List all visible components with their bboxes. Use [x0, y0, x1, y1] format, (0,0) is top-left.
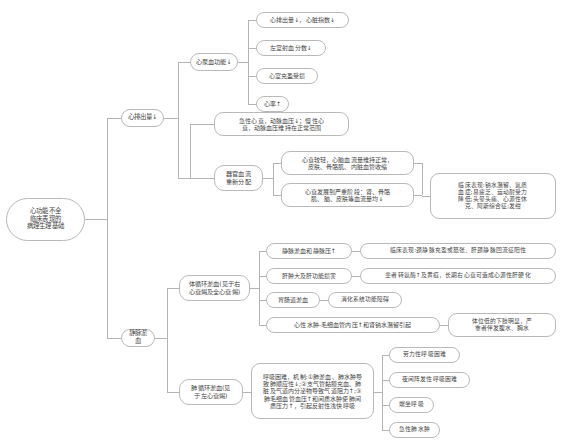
systemic-detail-3-line-2: 重者伴发腹水、胸水 — [453, 325, 551, 332]
node-pulmonary-item-0[interactable]: 劳力性呼吸困难 — [389, 347, 460, 363]
mind-map-canvas: 心功能不全 临床表现的 病理生理基础 心排出量↓ 静脉淤血 心泵血功能↓ 心排出… — [0, 0, 562, 442]
redistribution-note-line-2: 衰，动脉血压维持在正常范围 — [219, 124, 344, 131]
node-cardiac-output[interactable]: 心排出量↓ — [121, 109, 164, 127]
node-redistribution-item-1[interactable]: 心衰发展到严重阶段：肾、骨骼 肌、脑、皮肤等血流量均↓ — [281, 183, 414, 207]
mechanism-line-1: 呼吸困难，机制:①肺淤血、肺水肿导 — [256, 373, 369, 380]
pump-function-label: 心泵血功能↓ — [195, 58, 233, 66]
clinical-line-3: 降低;头晕头痛、心源性休 — [435, 196, 551, 203]
node-pulmonary-item-2[interactable]: 端坐呼吸 — [389, 397, 434, 413]
edge-redist-spine — [273, 163, 274, 195]
clinical-line-2: 血症;易疲乏、运动耐受力 — [435, 189, 551, 196]
node-pump-item-1[interactable]: 左室射血分数↓ — [256, 40, 326, 56]
edge-co-spine — [178, 62, 179, 178]
edge-to-systemic — [167, 288, 179, 289]
edge-to-cardiac-output — [107, 118, 121, 119]
edge-pump-item-2 — [248, 76, 256, 77]
edge-pump-out — [238, 62, 248, 63]
node-redistribution-note[interactable]: 急性心衰，动脉血压↓；慢性心 衰，动脉血压维持在正常范围 — [214, 112, 349, 136]
edge-pulm-item-2 — [382, 405, 389, 406]
edge-redist-out — [263, 178, 273, 179]
edge-co-out — [164, 118, 178, 119]
systemic-detail-3-line-1: 体位低的下肢明显，严 — [453, 318, 551, 325]
root-node[interactable]: 心功能不全 临床表现的 病理生理基础 — [6, 198, 85, 241]
pulmonary-item-1-label: 夜间阵发性呼吸困难 — [394, 376, 465, 383]
edge-vc-spine — [167, 288, 168, 392]
edge-sys1-detail — [352, 276, 360, 277]
pump-item-2-label: 心室充盈受损 — [261, 72, 313, 79]
node-pump-item-0[interactable]: 心排出量↓，心脏指数↓ — [256, 12, 349, 28]
edge-mech-out — [374, 392, 382, 393]
node-blood-redistribution[interactable]: 器官血流 重新分配 — [214, 165, 263, 191]
edge-redist-group-spine — [190, 124, 191, 178]
edge-level1-spine — [107, 118, 108, 338]
edge-pulm-item-3 — [382, 430, 389, 431]
edge-sys3-detail — [440, 325, 448, 326]
mechanism-line-3: 脏及气道内分泌物导致气道阻力↑;③ — [256, 387, 369, 394]
root-line-3: 病理生理基础 — [11, 223, 80, 231]
edge-item0-to-clinical — [414, 163, 422, 164]
edge-pulm-item-0 — [382, 355, 389, 356]
edge-vc-out — [155, 338, 167, 339]
edge-pump-spine — [248, 20, 249, 104]
node-systemic-item-3[interactable]: 心性水肿-毛细血管内压↑和肾钠水潴留引起 — [266, 317, 440, 333]
edge-sys0-detail — [352, 251, 360, 252]
pump-item-3-label: 心率↑ — [261, 100, 284, 107]
node-pulmonary-item-1[interactable]: 夜间阵发性呼吸困难 — [389, 372, 470, 388]
node-systemic-detail-2[interactable]: 消化系统功能障碍 — [328, 292, 402, 308]
redistribution-item-0-line-1: 心衰较轻，心脑血流量维持正常， — [286, 156, 409, 163]
edge-to-redist-note — [190, 124, 214, 125]
mechanism-line-5: 质压力↑，引起反射性浅快呼吸 — [256, 402, 369, 409]
edge-root-trunk — [85, 219, 107, 220]
edge-to-venous-congestion — [107, 338, 121, 339]
edge-to-redistribution — [178, 178, 190, 179]
node-systemic-congestion[interactable]: 体循环淤血(见于右 心衰竭及全心衰竭) — [179, 275, 250, 301]
redistribution-label-line-2: 重新分配 — [219, 178, 258, 186]
systemic-label-line-1: 体循环淤血(见于右 — [184, 280, 245, 288]
edge-systemic-out — [250, 288, 259, 289]
node-pump-item-2[interactable]: 心室充盈受损 — [256, 68, 318, 84]
edge-item1-to-clinical — [414, 195, 422, 196]
node-pulmonary-item-3[interactable]: 急性肺水肿 — [389, 422, 440, 438]
edge-pulm-item-1 — [382, 380, 389, 381]
edge-to-pulmonary — [167, 392, 179, 393]
edge-clinical-spine — [422, 163, 423, 195]
edge-pump-item-0 — [248, 20, 256, 21]
edge-pump-item-1 — [248, 48, 256, 49]
pulmonary-label-line-1: 肺循环淤血(见 — [184, 384, 238, 392]
redistribution-note-line-1: 急性心衰，动脉血压↓；慢性心 — [219, 117, 344, 124]
edge-redist-item-1 — [273, 195, 281, 196]
clinical-line-1: 临床表现:钠水潴留、氮质 — [435, 182, 551, 189]
edge-systemic-item-2 — [259, 300, 266, 301]
edge-clinical-in — [422, 196, 430, 197]
node-systemic-item-2[interactable]: 胃肠道淤血 — [266, 292, 320, 308]
edge-to-pump-function — [178, 62, 190, 63]
systemic-item-0-label: 静脉淤血和静脉压↑ — [271, 247, 347, 254]
node-systemic-detail-1[interactable]: 患者转氨酶↑及黄疸，长期右心衰可造成心源性肝硬化 — [360, 268, 556, 284]
node-pulmonary-congestion[interactable]: 肺循环淤血(见 于左心衰竭) — [179, 379, 243, 405]
clinical-line-4: 克、阿斯综合征;发绀 — [435, 203, 551, 210]
edge-pump-item-3 — [248, 104, 256, 105]
node-pump-function[interactable]: 心泵血功能↓ — [190, 53, 238, 71]
node-venous-congestion[interactable]: 静脉淤血 — [121, 329, 155, 347]
edge-redist-item-0 — [273, 163, 281, 164]
node-systemic-item-1[interactable]: 肝肿大及肝功能损害 — [266, 268, 352, 284]
node-pump-item-3[interactable]: 心率↑ — [256, 96, 289, 112]
pulmonary-label-line-2: 于左心衰竭) — [184, 392, 238, 400]
node-redistribution-item-0[interactable]: 心衰较轻，心脑血流量维持正常， 皮肤、骨骼肌、内脏血管收缩 — [281, 151, 414, 175]
systemic-item-3-label: 心性水肿-毛细血管内压↑和肾钠水潴留引起 — [271, 321, 435, 328]
redistribution-item-1-line-2: 肌、脑、皮肤等血流量均↓ — [286, 195, 409, 202]
node-systemic-item-0[interactable]: 静脉淤血和静脉压↑ — [266, 243, 352, 259]
node-systemic-detail-0[interactable]: 临床表现:颈静脉充盈或怒张、肝颈静脉回流征阳性 — [360, 243, 556, 259]
systemic-item-2-label: 胃肠道淤血 — [271, 296, 315, 303]
systemic-detail-2-label: 消化系统功能障碍 — [333, 296, 397, 303]
pump-item-1-label: 左室射血分数↓ — [261, 44, 321, 51]
node-systemic-detail-3[interactable]: 体位低的下肢明显，严 重者伴发腹水、胸水 — [448, 313, 556, 337]
node-redistribution-clinical[interactable]: 临床表现:钠水潴留、氮质 血症;易疲乏、运动耐受力 降低;头晕头痛、心源性休 克… — [430, 173, 556, 219]
node-dyspnea-mechanism[interactable]: 呼吸困难，机制:①肺淤血、肺水肿导 致肺顺应性↓;②支气管黏膜充血、肺 脏及气道… — [251, 363, 374, 419]
edge-systemic-item-3 — [259, 325, 266, 326]
pump-item-0-label: 心排出量↓，心脏指数↓ — [261, 16, 344, 23]
cardiac-output-label: 心排出量↓ — [126, 114, 159, 122]
pulmonary-item-3-label: 急性肺水肿 — [394, 426, 435, 433]
edge-systemic-spine — [259, 251, 260, 325]
mechanism-line-4: 肺毛细血管血压↑和间质水肿使肺间 — [256, 395, 369, 402]
